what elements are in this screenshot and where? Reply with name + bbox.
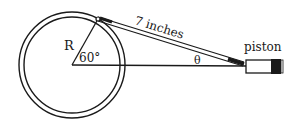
piston-label: piston	[244, 40, 282, 54]
baseline	[72, 65, 246, 66]
radius-label: R	[64, 38, 75, 53]
piston	[246, 59, 283, 74]
theta-label: θ	[194, 54, 201, 67]
crank-pin	[96, 17, 100, 21]
angle-label: 60°	[79, 51, 100, 65]
crank-piston-diagram: R 60° 7 inches θ piston	[0, 0, 298, 129]
rod-length-label: 7 inches	[133, 13, 186, 41]
